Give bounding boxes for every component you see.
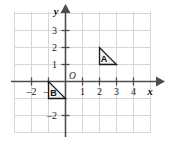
y-tick-label-3: 3 xyxy=(52,25,57,36)
y-tick-label--2: –2 xyxy=(46,110,57,121)
y-tick-label-1: 1 xyxy=(52,59,57,70)
triangle-b-label: B xyxy=(50,88,57,98)
plot-area: –2 –1 1 2 3 4 3 2 1 –2 x y O A B xyxy=(0,0,169,143)
x-tick-label--2: –2 xyxy=(26,86,37,97)
origin-label: O xyxy=(69,71,76,81)
triangle-a-label: A xyxy=(101,54,108,64)
x-tick-label-2: 2 xyxy=(97,86,102,97)
y-tick-label-2: 2 xyxy=(52,42,57,53)
figure-background xyxy=(0,0,169,143)
x-tick-label-4: 4 xyxy=(131,86,136,97)
coordinate-grid-figure: –2 –1 1 2 3 4 3 2 1 –2 x y O A B xyxy=(0,0,169,143)
y-axis-label: y xyxy=(52,6,59,17)
x-tick-label-3: 3 xyxy=(114,86,119,97)
x-tick-label-1: 1 xyxy=(80,86,85,97)
x-axis-label: x xyxy=(146,86,152,97)
